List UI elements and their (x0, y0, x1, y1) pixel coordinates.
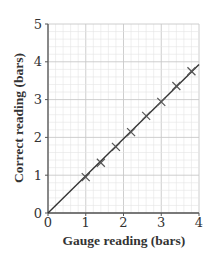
x-tick-label: 2 (119, 215, 127, 230)
calibration-chart: 01234012345 Gauge reading (bars) Correct… (0, 0, 215, 262)
x-tick-label: 0 (44, 215, 52, 230)
y-tick-label: 0 (34, 206, 42, 221)
grid (48, 24, 199, 213)
x-axis-label: Gauge reading (bars) (63, 233, 186, 248)
x-tick-label: 3 (157, 215, 165, 230)
axes (45, 24, 199, 216)
y-tick-label: 5 (34, 17, 42, 32)
x-tick-label: 4 (195, 215, 203, 230)
y-tick-label: 2 (34, 130, 42, 145)
y-tick-label: 4 (34, 54, 42, 69)
y-axis-label: Correct reading (bars) (11, 53, 26, 183)
y-tick-label: 1 (34, 168, 42, 183)
y-tick-label: 3 (34, 92, 42, 107)
x-tick-label: 1 (82, 215, 90, 230)
